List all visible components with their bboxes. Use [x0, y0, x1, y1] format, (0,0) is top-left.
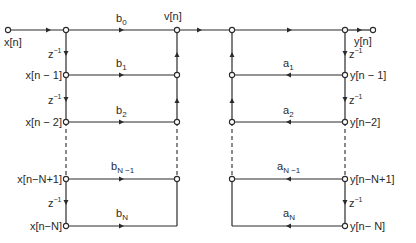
x-node-N-1	[63, 176, 68, 181]
x-node-label: x[n − 1]	[26, 69, 62, 81]
arrow-icon	[46, 28, 51, 33]
coef-aN: aN	[283, 207, 295, 222]
delay-label: z−1	[349, 93, 363, 106]
arrow-icon	[197, 28, 202, 33]
fb-sum-node-2	[229, 119, 234, 124]
y-node-0	[342, 27, 347, 32]
x-node-label: x[n−N+1]	[17, 173, 62, 185]
fb-sum-node-1	[229, 72, 234, 77]
labels: x[n] v[n] y[n] z−1 z−1 z−1 z−1 z−1 z−1 x…	[4, 10, 395, 232]
y-node-label: y[n− N]	[350, 220, 385, 232]
arrow-icon	[286, 120, 291, 125]
y-node-1	[342, 72, 347, 77]
arrow-icon	[286, 224, 291, 229]
arrow-icon	[64, 97, 69, 102]
coef-b2: b2	[116, 104, 127, 119]
sum-node-N-1	[174, 176, 179, 181]
arrow-icon	[175, 52, 180, 57]
feedforward-section	[8, 28, 180, 229]
input-label: x[n]	[4, 36, 22, 48]
arrow-icon	[119, 224, 124, 229]
output-label: y[n]	[354, 35, 372, 47]
y-node-label: y[n − 1]	[350, 69, 386, 81]
coef-bN: bN	[116, 207, 128, 222]
arrow-icon	[119, 73, 124, 78]
arrow-icon	[119, 28, 124, 33]
v-label: v[n]	[164, 10, 182, 22]
fb-sum-node-N-1	[229, 176, 234, 181]
y-node-N-1	[342, 176, 347, 181]
arrow-icon	[119, 120, 124, 125]
y-node-2	[342, 119, 347, 124]
arrow-icon	[286, 73, 291, 78]
x-node-0	[63, 27, 68, 32]
output-node	[370, 27, 375, 32]
coef-aN-1: aN −1	[277, 160, 301, 175]
sum-node-1	[174, 72, 179, 77]
arrow-icon	[119, 177, 124, 182]
delay-label: z−1	[48, 93, 62, 106]
coef-a2: a2	[283, 104, 294, 119]
delay-label: z−1	[48, 47, 62, 60]
x-node-N	[63, 223, 68, 228]
coef-a1: a1	[283, 57, 294, 72]
direct-form-1-flow-graph: x[n] v[n] y[n] z−1 z−1 z−1 z−1 z−1 z−1 x…	[0, 0, 416, 243]
arrow-icon	[286, 177, 291, 182]
arrow-icon	[357, 28, 362, 33]
fb-sum-node-0	[229, 27, 234, 32]
arrow-icon	[343, 200, 348, 205]
x-node-1	[63, 72, 68, 77]
input-node	[5, 27, 10, 32]
arrow-icon	[175, 98, 180, 103]
arrow-icon	[343, 51, 348, 56]
arrow-icon	[230, 98, 235, 103]
y-node-label: y[n−N+1]	[350, 173, 395, 185]
y-node-N	[342, 223, 347, 228]
delay-label: z−1	[349, 196, 363, 209]
sum-node-2	[174, 119, 179, 124]
x-node-label: x[n − 2]	[26, 116, 62, 128]
coef-bN-1: bN −1	[111, 160, 135, 175]
arrow-icon	[64, 51, 69, 56]
arrow-icon	[230, 52, 235, 57]
coef-b0: b0	[116, 12, 127, 27]
delay-label: z−1	[349, 47, 363, 60]
coef-b1: b1	[116, 57, 127, 72]
arrow-icon	[64, 200, 69, 205]
y-node-label: y[n−2]	[350, 116, 380, 128]
arrow-icon	[343, 97, 348, 102]
x-node-label: x[n−N]	[30, 220, 62, 232]
arrow-icon	[287, 28, 292, 33]
x-node-2	[63, 119, 68, 124]
delay-label: z−1	[48, 196, 62, 209]
v-node	[174, 27, 179, 32]
